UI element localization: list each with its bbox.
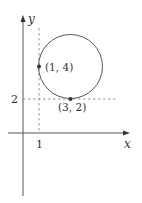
x-axis-arrow-icon — [123, 131, 130, 136]
y-axis-label: y — [27, 12, 35, 26]
y-axis-arrow-icon — [21, 15, 26, 22]
point-label-1-4: (1, 4) — [45, 61, 73, 73]
y-tick-label: 2 — [11, 93, 18, 106]
x-tick-label: 1 — [36, 138, 43, 151]
coordinate-diagram: y x 1 2 (1, 4) (3, 2) — [0, 0, 142, 203]
x-axis-label: x — [124, 137, 131, 151]
point-label-3-2: (3, 2) — [58, 101, 86, 113]
point-1-4 — [37, 65, 41, 69]
